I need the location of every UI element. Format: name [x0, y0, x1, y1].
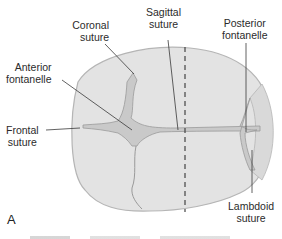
label-line: Lambdoid [228, 200, 274, 212]
label-lambdoid-suture: Lambdoid suture [228, 200, 274, 224]
label-line: fontanelle [222, 29, 268, 41]
label-line: Sagittal [146, 6, 181, 18]
label-frontal-suture: Frontal suture [6, 124, 39, 148]
label-line: suture [228, 212, 274, 224]
label-posterior-fontanelle: Posterior fontanelle [222, 17, 268, 41]
label-line: suture [6, 136, 39, 148]
label-line: fontanelle [6, 73, 52, 85]
label-line: suture [146, 18, 181, 30]
label-coronal-suture: Coronal suture [72, 19, 109, 43]
label-anterior-fontanelle: Anterior fontanelle [6, 61, 52, 85]
label-line: Frontal [6, 124, 39, 136]
label-line: Posterior [222, 17, 268, 29]
label-line: Anterior [6, 61, 52, 73]
truncated-caption [30, 233, 280, 239]
label-line: suture [72, 31, 109, 43]
label-line: Coronal [72, 19, 109, 31]
panel-letter: A [7, 212, 16, 227]
label-sagittal-suture: Sagittal suture [146, 6, 181, 30]
